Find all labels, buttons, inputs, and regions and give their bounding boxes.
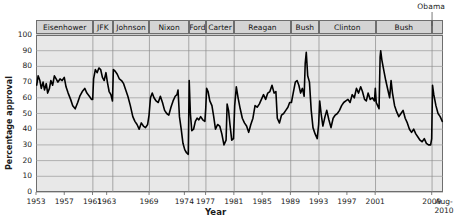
y-tick-label: 60 [6,93,32,102]
y-tick-label: 70 [6,77,32,86]
x-tick-label: 2001 [360,197,390,206]
x-tick-label: 1963 [92,197,122,206]
x-tick-label-aug: Aug- [430,197,458,206]
y-tick-label: 40 [6,124,32,133]
y-tick-label: 80 [6,61,32,70]
x-tick-label: 1981 [219,197,249,206]
y-tick-label: 100 [6,30,32,39]
y-tick-label: 90 [6,46,32,55]
y-tick-label: 10 [6,171,32,180]
y-tick-label: 0 [6,187,32,196]
x-tick-label-2010: 2010 [430,206,458,215]
y-tick-label: 30 [6,140,32,149]
x-tick-label: 1997 [332,197,362,206]
x-tick-label: 1985 [247,197,277,206]
x-tick-label: 1957 [49,197,79,206]
x-tick-label: 1953 [21,197,51,206]
x-tick-label: 1993 [304,197,334,206]
y-tick-label: 20 [6,156,32,165]
x-tick-label: 1977 [191,197,221,206]
y-tick-label: 50 [6,109,32,118]
x-tick-label: 1969 [134,197,164,206]
x-tick-label: 1989 [275,197,305,206]
